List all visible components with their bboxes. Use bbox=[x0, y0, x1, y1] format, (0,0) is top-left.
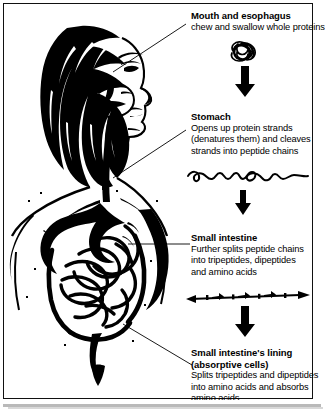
step-line: and amino acids bbox=[191, 267, 304, 279]
step-line: Opens up protein strands bbox=[191, 123, 311, 135]
step-line: into tripeptides, dipeptides bbox=[191, 255, 304, 267]
step-line: chew and swallow whole proteins bbox=[191, 22, 325, 34]
flow-arrow-down-3 bbox=[234, 306, 256, 338]
step-mouth-and-esophagus: Mouth and esophagus chew and swallow who… bbox=[191, 10, 325, 33]
flow-arrow-down-2 bbox=[234, 190, 252, 216]
step-heading: Small intestine's lining bbox=[191, 347, 318, 359]
page-shadow-secondary bbox=[8, 407, 323, 409]
step-heading: Small intestine bbox=[191, 232, 304, 244]
flow-arrow-down-1 bbox=[234, 66, 256, 98]
step-heading-second-line: (absorptive cells) bbox=[191, 359, 318, 371]
step-small-intestine: Small intestine Further splits peptide c… bbox=[191, 232, 304, 278]
leader-line-mouth bbox=[112, 22, 192, 74]
denatured-protein-strand-icon bbox=[186, 166, 310, 186]
step-stomach: Stomach Opens up protein strands (denatu… bbox=[191, 111, 311, 157]
leader-line-lining bbox=[122, 323, 194, 367]
step-line: into amino acids and absorbs bbox=[191, 382, 318, 394]
step-heading: Stomach bbox=[191, 111, 311, 123]
leader-line-stomach bbox=[112, 128, 192, 180]
step-heading: Mouth and esophagus bbox=[191, 10, 325, 22]
step-line: (denatures them) and cleaves bbox=[191, 134, 311, 146]
step-line: Further splits peptide chains bbox=[191, 244, 304, 256]
segmented-peptide-chain-icon bbox=[186, 290, 310, 306]
step-small-intestine-lining: Small intestine's lining (absorptive cel… bbox=[191, 347, 318, 405]
step-line: strands into peptide chains bbox=[191, 146, 311, 158]
leader-line-small-intestine bbox=[128, 240, 192, 248]
tangled-protein-ball-icon bbox=[226, 38, 262, 64]
step-line: Splits tripeptides and dipeptides bbox=[191, 370, 318, 382]
